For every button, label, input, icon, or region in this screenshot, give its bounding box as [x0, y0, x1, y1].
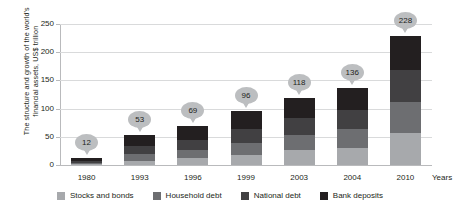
- bar-segment: [231, 155, 262, 165]
- x-axis-tick-label-2004: 2004: [329, 173, 375, 182]
- bar-segment: [390, 133, 421, 165]
- bar-segment: [231, 143, 262, 155]
- x-axis-tick-label-1993: 1993: [117, 173, 163, 182]
- y-axis-line: [60, 24, 61, 166]
- y-axis-tick-mark: [56, 52, 60, 53]
- legend-label: Stocks and bonds: [70, 191, 134, 200]
- x-axis-tick-label-1996: 1996: [170, 173, 216, 182]
- bar-segment: [124, 135, 155, 146]
- bar-segment: [124, 161, 155, 166]
- legend-label: Household debt: [166, 191, 222, 200]
- bar-2003: [284, 98, 315, 165]
- bar-1980: [71, 158, 102, 165]
- bar-1996: [177, 126, 208, 165]
- bar-segment: [284, 118, 315, 135]
- y-axis-tick-mark: [56, 24, 60, 25]
- legend-label: Bank deposits: [333, 191, 383, 200]
- y-axis-tick-label: 150: [26, 75, 54, 84]
- bar-segment: [231, 111, 262, 129]
- bar-segment: [177, 150, 208, 158]
- bar-2010: [390, 36, 421, 165]
- legend-swatch-icon: [57, 192, 65, 200]
- x-axis-tick-label-2010: 2010: [382, 173, 428, 182]
- bar-segment: [337, 148, 368, 165]
- y-axis-tick-label: 200: [26, 47, 54, 56]
- legend-item-3[interactable]: Bank deposits: [320, 191, 383, 200]
- bar-segment: [71, 164, 102, 165]
- bar-segment: [177, 126, 208, 140]
- y-axis-tick-label: 250: [26, 19, 54, 28]
- x-axis-title: Years: [432, 173, 452, 182]
- x-axis-tick-label-2003: 2003: [276, 173, 322, 182]
- y-axis-tick-mark: [56, 165, 60, 166]
- bar-segment: [284, 150, 315, 165]
- value-callout-2010: 228: [394, 12, 417, 29]
- value-callout-1980: 12: [75, 134, 98, 151]
- bar-segment: [390, 102, 421, 133]
- bar-segment: [337, 129, 368, 147]
- gridline: [60, 24, 432, 25]
- y-axis-tick-mark: [56, 137, 60, 138]
- bar-1999: [231, 111, 262, 165]
- legend-item-0[interactable]: Stocks and bonds: [57, 191, 134, 200]
- legend: Stocks and bondsHousehold debtNational d…: [57, 191, 402, 200]
- gridline: [60, 52, 432, 53]
- bar-segment: [177, 158, 208, 165]
- value-callout-1996: 69: [181, 102, 204, 119]
- y-axis-tick-label: 100: [26, 103, 54, 112]
- legend-item-1[interactable]: Household debt: [153, 191, 222, 200]
- bar-segment: [124, 146, 155, 154]
- x-axis-tick-label-1980: 1980: [64, 173, 110, 182]
- bar-segment: [337, 88, 368, 109]
- legend-label: National debt: [254, 191, 301, 200]
- plot-area: 050100150200250 12536996118136228: [60, 24, 432, 166]
- legend-swatch-icon: [153, 192, 161, 200]
- gridline: [60, 109, 432, 110]
- value-callout-1993: 53: [128, 111, 151, 128]
- legend-item-2[interactable]: National debt: [241, 191, 301, 200]
- chart-container: The structure and growth of the world's …: [0, 0, 462, 215]
- y-axis-tick-mark: [56, 80, 60, 81]
- value-callout-1999: 96: [235, 87, 258, 104]
- bar-segment: [284, 98, 315, 117]
- bar-segment: [337, 110, 368, 130]
- legend-swatch-icon: [241, 192, 249, 200]
- value-callout-2003: 118: [288, 74, 311, 91]
- bar-2004: [337, 88, 368, 165]
- bar-1993: [124, 135, 155, 165]
- value-callout-2004: 136: [341, 64, 364, 81]
- bar-segment: [177, 140, 208, 150]
- gridline: [60, 80, 432, 81]
- y-axis-tick-label: 50: [26, 131, 54, 140]
- bar-segment: [390, 36, 421, 70]
- y-axis-tick-mark: [56, 109, 60, 110]
- y-axis-tick-label: 0: [26, 160, 54, 169]
- x-axis-line: [60, 165, 432, 166]
- bar-segment: [284, 135, 315, 150]
- legend-swatch-icon: [320, 192, 328, 200]
- bar-segment: [231, 129, 262, 143]
- bar-segment: [390, 70, 421, 102]
- x-axis-tick-label-1999: 1999: [223, 173, 269, 182]
